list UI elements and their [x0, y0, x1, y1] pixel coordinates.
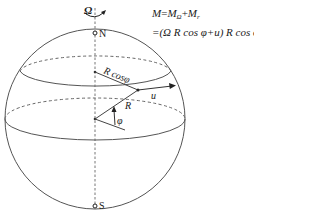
phi-label: φ: [117, 115, 123, 126]
radius-label: R: [124, 100, 131, 111]
angular-momentum-formula: M=MΩ+Mr =(Ω R cos φ+u) R cos φ: [152, 6, 254, 40]
velocity-label: u: [151, 90, 156, 101]
formula-sub-r: r: [197, 13, 200, 21]
north-pole-marker: [93, 31, 97, 35]
formula-m-r: M: [188, 7, 197, 19]
formula-m: M: [152, 7, 161, 19]
south-pole-label: S: [99, 200, 105, 211]
phi-arrow: [114, 110, 115, 125]
north-pole-label: N: [99, 28, 106, 39]
formula-expansion: =(Ω R cos φ+u) R cos φ: [152, 26, 254, 38]
formula-line-1: M=MΩ+Mr: [152, 6, 254, 25]
formula-line-2: =(Ω R cos φ+u) R cos φ: [152, 25, 254, 40]
rotation-label: Ω: [84, 4, 93, 16]
velocity-arrowhead-icon: [169, 83, 176, 89]
south-pole-marker: [93, 204, 97, 208]
radius-cos-label: R cosφ: [101, 64, 132, 85]
formula-m-omega: M: [167, 7, 176, 19]
